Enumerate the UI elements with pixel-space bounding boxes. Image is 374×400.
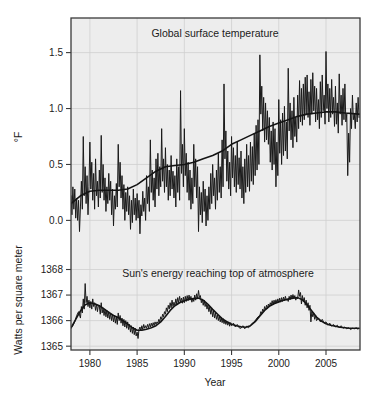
climate-solar-chart-figure: 0.00.51.01.51365136613671368198019851990… — [0, 0, 374, 400]
plot-area-background — [71, 18, 360, 350]
y-tick-label: 1368 — [41, 264, 64, 275]
x-tick-label: 1985 — [126, 358, 149, 369]
x-tick-label: 2005 — [315, 358, 338, 369]
y-axis-title-temperature: °F — [12, 132, 24, 143]
x-tick-label: 1980 — [79, 358, 102, 369]
panel-title-solar: Sun's energy reaching top of atmosphere — [122, 267, 314, 279]
y-tick-label: 1.0 — [49, 103, 63, 114]
y-tick-label: 1366 — [41, 315, 64, 326]
x-tick-label: 1995 — [220, 358, 243, 369]
y-axis-title-solar: Watts per square meter — [12, 245, 24, 355]
y-tick-label: 1.5 — [49, 47, 63, 58]
y-tick-label: 0.5 — [49, 159, 63, 170]
panel-title-temperature: Global surface temperature — [151, 27, 278, 39]
y-tick-label: 1367 — [41, 289, 64, 300]
y-tick-label: 0.0 — [49, 215, 63, 226]
x-tick-label: 1990 — [173, 358, 196, 369]
x-axis-title: Year — [204, 376, 226, 388]
chart-canvas: 0.00.51.01.51365136613671368198019851990… — [0, 0, 374, 400]
x-tick-label: 2000 — [268, 358, 291, 369]
y-tick-label: 1365 — [41, 341, 64, 352]
